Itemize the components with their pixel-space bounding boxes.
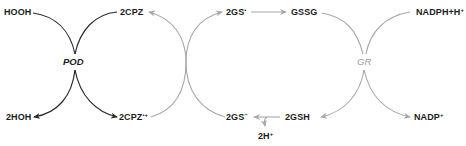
arrow-proton-release [264, 117, 267, 126]
arrow-cpz-regeneration [149, 12, 186, 117]
label-gsh-text: 2GSH [285, 112, 310, 122]
label-gs-anion-sup: − [244, 112, 248, 118]
arrow-cpz-radical-out [75, 70, 117, 117]
arrow-gssg-in [322, 13, 363, 54]
arrow-hoh-out [34, 70, 75, 117]
label-nadp-sup: + [440, 112, 444, 118]
label-gs-anion-text: 2GS [226, 112, 244, 122]
reaction-diagram: HOOH 2CPZ 2GS• GSSG NADPH+H+ POD GR 2HOH… [0, 0, 466, 146]
arrow-hooh-in [33, 13, 75, 54]
label-protons-sup: + [270, 131, 274, 137]
arrow-gs-radical-formation [186, 12, 225, 117]
label-gs-radical-sup: • [244, 7, 246, 13]
label-hooh: HOOH [4, 7, 31, 17]
label-hooh-text: HOOH [4, 7, 31, 17]
label-gs-radical-text: 2GS [226, 7, 244, 17]
reaction-arrows [0, 0, 466, 146]
label-nadp: NADP+ [414, 112, 444, 122]
label-nadph: NADPH+H+ [416, 7, 464, 17]
label-2hoh-text: 2HOH [6, 112, 31, 122]
arrow-gsh-out [321, 70, 364, 117]
arrow-cpz-in [75, 12, 117, 54]
label-gssg: GSSG [291, 7, 317, 17]
label-2hoh: 2HOH [6, 112, 31, 122]
label-cpz-radical-text: 2CPZ [119, 112, 142, 122]
label-cpz-radical-sup: •+ [142, 112, 148, 118]
label-cpz-text: 2CPZ [120, 7, 143, 17]
enzyme-pod: POD [63, 57, 84, 67]
arrow-nadph-in [366, 12, 410, 54]
label-gssg-text: GSSG [291, 7, 317, 17]
label-nadph-text: NADPH+H [416, 7, 460, 17]
label-protons-text: 2H [258, 131, 270, 141]
label-cpz-radical: 2CPZ•+ [119, 112, 148, 122]
label-cpz: 2CPZ [120, 7, 143, 17]
arrow-nadp-out [364, 70, 410, 117]
label-protons: 2H+ [258, 131, 273, 141]
label-nadp-text: NADP [414, 112, 440, 122]
enzyme-gr: GR [357, 57, 371, 67]
label-gs-radical: 2GS• [226, 7, 247, 17]
label-gsh: 2GSH [285, 112, 310, 122]
label-nadph-sup: + [460, 7, 464, 13]
label-gs-anion: 2GS− [226, 112, 248, 122]
